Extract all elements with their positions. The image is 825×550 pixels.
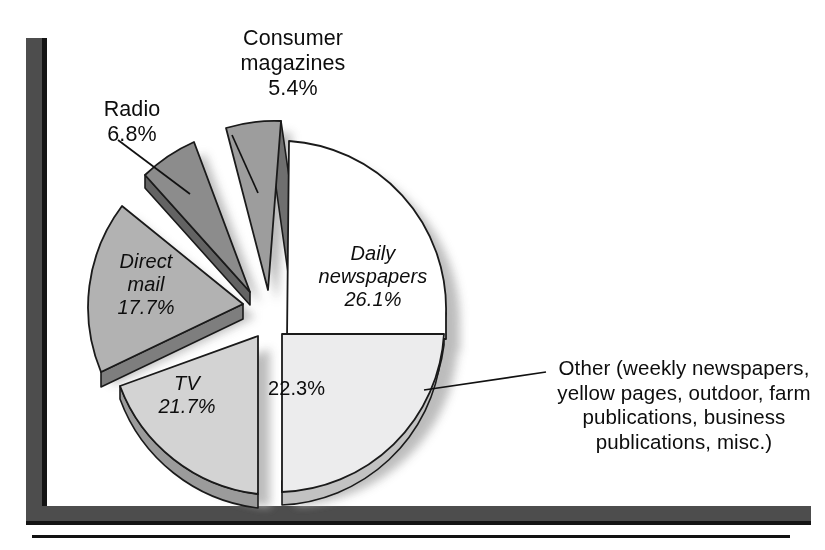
pie-chart-figure: Consumer magazines 5.4% Radio 6.8% Daily… bbox=[0, 0, 825, 550]
leader-line-other bbox=[424, 372, 546, 390]
slice-label-other: Other (weekly newspapers, yellow pages, … bbox=[548, 356, 820, 454]
slice-label-direct-mail: Direct mail 17.7% bbox=[62, 250, 230, 320]
slice-label-radio: Radio 6.8% bbox=[48, 97, 216, 147]
slice-value-other: 22.3% bbox=[268, 377, 398, 400]
slice-other[interactable] bbox=[282, 334, 444, 492]
slice-label-consumer-magazines: Consumer magazines 5.4% bbox=[184, 26, 402, 101]
slice-label-tv: TV 21.7% bbox=[108, 372, 266, 418]
slice-label-daily-newspapers: Daily newspapers 26.1% bbox=[278, 242, 468, 312]
